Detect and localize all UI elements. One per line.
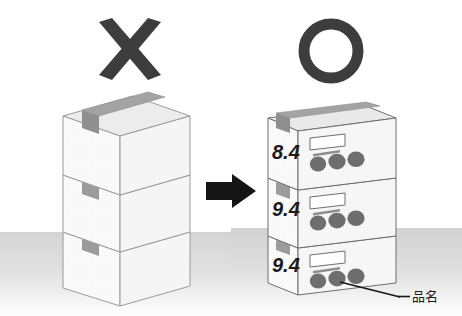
right-box-bottom-mark-2	[328, 271, 345, 287]
illustration-canvas: 9.4 9.4	[0, 0, 462, 316]
right-box-top-number: 8.4	[272, 141, 300, 163]
right-box-middle-mark-3	[347, 210, 364, 226]
right-box-middle-number: 9.4	[272, 198, 300, 220]
right-box-top: 8.4	[268, 102, 396, 190]
right-box-middle-mark-1	[310, 216, 326, 231]
right-box-bottom-number: 9.4	[272, 254, 300, 276]
right-box-middle-mark-2	[328, 213, 345, 229]
right-box-bottom-mark-3	[347, 268, 364, 284]
product-name-label: 品名	[412, 289, 438, 304]
right-box-middle: 9.4	[268, 178, 396, 248]
right-box-top-mark-3	[347, 151, 364, 167]
labeled-carton-stack: 9.4 9.4	[268, 102, 396, 295]
right-box-bottom-mark-1	[310, 274, 326, 289]
unlabeled-carton-stack	[63, 92, 190, 306]
right-box-top-mark-2	[328, 154, 345, 170]
carton-illustration-svg: 9.4 9.4	[0, 0, 462, 316]
right-box-top-mark-1	[310, 157, 326, 172]
